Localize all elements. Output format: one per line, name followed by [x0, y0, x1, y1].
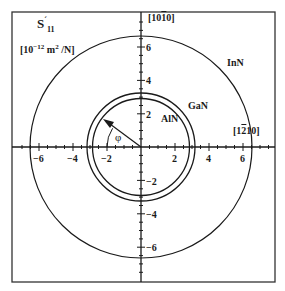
dir-top-pre: [10 — [148, 12, 161, 23]
x-tick-labels: −6 −4 −2 2 4 6 — [33, 153, 245, 164]
y-tick-label: −2 — [146, 176, 157, 187]
material-label-aln: AlN — [161, 114, 178, 124]
y-tick-label: −6 — [146, 242, 157, 253]
quantity-prime: ´ — [44, 16, 47, 25]
x-tick-label: 4 — [206, 153, 211, 164]
units-exponent: −12 — [33, 43, 44, 51]
angle-arc — [107, 128, 113, 147]
dir-right-post: 10] — [246, 125, 259, 136]
y-tick-label: 2 — [146, 109, 151, 120]
dir-top-post: 0] — [166, 12, 174, 23]
direction-label-top: [1010] — [148, 13, 175, 23]
polar-compliance-diagram: −6 −4 −2 2 4 6 6 4 2 −2 −4 −6 S´11 [10−1… — [0, 0, 285, 291]
units-prefix: [10 — [20, 44, 33, 55]
quantity-label: S´11 — [37, 17, 54, 34]
material-label-inn: InN — [227, 58, 244, 68]
angle-label-phi: φ — [115, 132, 121, 143]
y-tick-label: −4 — [146, 209, 157, 220]
x-tick-label: 6 — [240, 153, 245, 164]
y-tick-label: 4 — [146, 75, 151, 86]
x-tick-label: −4 — [67, 153, 78, 164]
x-tick-label: −6 — [33, 153, 44, 164]
arrow-head-icon — [103, 119, 114, 128]
units-suffix: /N] — [59, 44, 75, 55]
x-tick-label: 2 — [172, 153, 177, 164]
direction-label-right: [1210] — [233, 126, 260, 136]
quantity-subscript: 11 — [47, 25, 55, 34]
material-label-gan: GaN — [188, 101, 208, 111]
x-tick-label: −2 — [101, 153, 112, 164]
y-tick-label: 6 — [146, 42, 151, 53]
units-label: [10−12 m2 /N] — [20, 44, 75, 55]
units-mid: m — [44, 44, 55, 55]
